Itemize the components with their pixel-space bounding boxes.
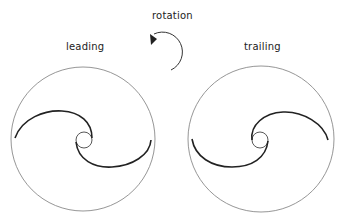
trailing-blade-upper: [252, 112, 328, 140]
trailing-housing-circle: [188, 66, 334, 212]
diagram-canvas: [0, 0, 340, 224]
leading-housing-circle: [11, 67, 155, 211]
leading-blade-lower: [76, 140, 151, 167]
trailing-impeller: [188, 66, 334, 212]
trailing-blade-lower: [192, 139, 268, 167]
leading-impeller: [11, 67, 155, 211]
leading-blade-upper: [15, 111, 92, 138]
leading-hub-circle: [76, 132, 92, 148]
rotation-arrow-icon: [150, 32, 182, 70]
trailing-hub-circle: [252, 132, 268, 148]
